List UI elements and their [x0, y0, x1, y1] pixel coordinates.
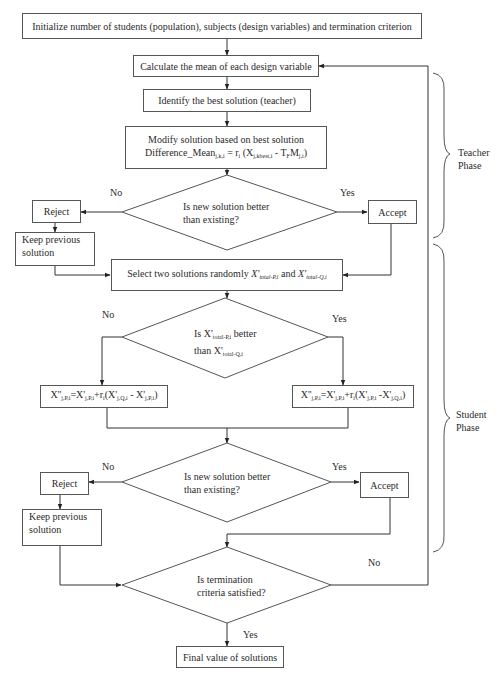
- identify-best-label: Identify the best solution (teacher): [158, 94, 296, 107]
- keep-previous1-box: Keep previous solution: [15, 232, 95, 266]
- student-phase-brace: [433, 244, 450, 552]
- identify-best-box: Identify the best solution (teacher): [143, 89, 311, 112]
- calc-mean-label: Calculate the mean of each design variab…: [140, 60, 312, 73]
- edge-accept1-to-select: [343, 222, 391, 275]
- teacher-phase-brace: [433, 73, 450, 238]
- accept1-box: Accept: [368, 200, 417, 224]
- formula-left-box: X''j,P,i=X'j,P,i+ri(X'j,Q,i - X'j,P,i): [40, 385, 168, 408]
- init-box: Initialize number of students (populatio…: [22, 13, 422, 39]
- reject2-box: Reject: [40, 472, 89, 495]
- decision2-text: Is X'total-P,i better than X'total-Q,i: [194, 327, 257, 361]
- modify-solution-box: Modify solution based on best solution D…: [125, 126, 327, 169]
- decision2-yes-label: Yes: [332, 312, 347, 325]
- edge-keep1-to-select: [55, 266, 110, 275]
- student-phase-label: Student Phase: [456, 408, 487, 434]
- edge-d4-no-loop: [319, 66, 428, 585]
- reject1-box: Reject: [32, 200, 81, 223]
- decision4-text: Is termination criteria satisfied?: [197, 573, 266, 599]
- decision4-no-label: No: [368, 556, 380, 569]
- decision1-no-label: No: [110, 186, 122, 199]
- modify-line1: Modify solution based on best solution: [148, 133, 304, 146]
- decision2-no-label: No: [102, 308, 114, 321]
- calc-mean-box: Calculate the mean of each design variab…: [133, 55, 319, 77]
- decision3-no-label: No: [102, 460, 114, 473]
- decision3-text: Is new solution better than existing?: [184, 470, 270, 496]
- decision3-yes-label: Yes: [332, 460, 347, 473]
- edge-merge-left: [107, 407, 348, 428]
- teacher-phase-label: Teacher Phase: [458, 146, 490, 172]
- decision1-text: Is new solution better than existing?: [183, 200, 269, 226]
- init-label: Initialize number of students (populatio…: [32, 20, 412, 33]
- modify-line2: Difference_Meanj,k,i = ri (Xj,kbest,i - …: [145, 146, 307, 163]
- edge-keep2-to-decision4: [60, 546, 121, 585]
- accept2-box: Accept: [360, 472, 409, 498]
- decision1-yes-label: Yes: [340, 186, 355, 199]
- formula-right-box: X''j,P,i=X'j,P,i+ri(X'j,P,i -X'j,Q,i): [292, 385, 414, 408]
- select-two-box: Select two solutions randomly X'total-P,…: [111, 259, 343, 291]
- edge-d2-no: [102, 337, 122, 385]
- decision4-yes-label: Yes: [243, 628, 258, 641]
- edge-d2-yes: [328, 337, 343, 385]
- final-solutions-box: Final value of solutions: [176, 646, 284, 668]
- keep-previous2-box: Keep previous solution: [22, 509, 102, 546]
